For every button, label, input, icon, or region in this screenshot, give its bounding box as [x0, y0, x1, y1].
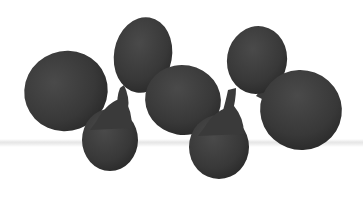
- orbital-lobes-graphic: [0, 0, 363, 199]
- orbital-scene: [0, 0, 363, 199]
